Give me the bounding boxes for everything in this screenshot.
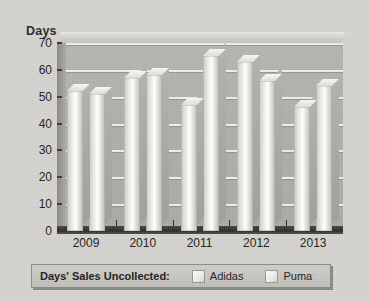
bar-adidas-2010: [124, 78, 140, 231]
y-tick-label-60: 60: [30, 63, 52, 77]
y-tick-mark-20: [57, 176, 62, 178]
legend-label-puma: Puma: [283, 270, 312, 282]
chart-figure: Days 010203040506070 2009201020112012201…: [0, 0, 370, 302]
y-tick-mark-50: [57, 96, 62, 98]
bar-front-face: [181, 105, 197, 231]
x-tick-label-2009: 2009: [73, 236, 100, 250]
x-tick-label-2011: 2011: [187, 236, 213, 250]
bar-front-face: [294, 107, 310, 231]
y-tick-label-0: 0: [30, 224, 52, 238]
bar-front-face: [259, 81, 275, 231]
x-tick-label-2013: 2013: [300, 236, 327, 250]
y-tick-label-70: 70: [30, 36, 52, 50]
y-tick-mark-40: [57, 123, 62, 125]
x-tick-label-2010: 2010: [129, 236, 156, 250]
bar-front-face: [146, 75, 162, 231]
y-tick-label-40: 40: [30, 117, 52, 131]
y-tick-mark-70: [57, 42, 62, 44]
legend-label-adidas: Adidas: [210, 270, 244, 282]
chart-legend: Days' Sales Uncollected: Adidas Puma: [31, 264, 331, 288]
bar-puma-2011: [203, 56, 219, 231]
bar-adidas-2011: [181, 105, 197, 231]
bar-adidas-2012: [237, 62, 253, 231]
x-tick-label-2012: 2012: [243, 236, 270, 250]
legend-entry-adidas: Adidas: [192, 270, 244, 283]
y-tick-mark-10: [57, 203, 62, 205]
y-tick-label-10: 10: [30, 197, 52, 211]
bar-front-face: [237, 62, 253, 231]
y-tick-mark-60: [57, 69, 62, 71]
bar-adidas-2009: [67, 91, 83, 231]
bar-side-face: [140, 65, 147, 224]
bar-front-face: [89, 94, 105, 231]
x-tick-mark-2011: [173, 220, 174, 226]
bar-puma-2013: [316, 86, 332, 231]
x-tick-mark-2010: [116, 220, 117, 226]
bar-front-face: [67, 91, 83, 231]
bar-side-face: [219, 43, 226, 224]
x-tick-mark-2013: [286, 220, 287, 226]
bar-front-face: [203, 56, 219, 231]
legend-swatch-adidas: [192, 270, 205, 283]
x-axis-tick-labels: 20092010201120122013: [57, 236, 343, 254]
x-tick-mark-2012: [229, 220, 230, 226]
legend-entry-puma: Puma: [265, 270, 312, 283]
bar-side-face: [83, 78, 90, 224]
y-tick-label-30: 30: [30, 143, 52, 157]
legend-title: Days' Sales Uncollected:: [40, 270, 170, 282]
bar-side-face: [105, 81, 112, 224]
bar-front-face: [124, 78, 140, 231]
y-tick-label-20: 20: [30, 170, 52, 184]
bar-puma-2009: [89, 94, 105, 231]
bar-series-container: [57, 43, 341, 231]
legend-swatch-puma: [265, 270, 278, 283]
plot-area: [57, 32, 341, 231]
bar-side-face: [275, 67, 282, 224]
bar-side-face: [162, 62, 169, 224]
bar-puma-2012: [259, 81, 275, 231]
y-axis-tick-labels: 010203040506070: [24, 32, 52, 231]
bar-side-face: [197, 91, 204, 224]
bar-side-face: [253, 49, 260, 224]
bar-side-face: [332, 73, 339, 224]
bar-adidas-2013: [294, 107, 310, 231]
y-tick-label-50: 50: [30, 90, 52, 104]
bar-puma-2010: [146, 75, 162, 231]
bar-side-face: [310, 94, 317, 224]
bar-front-face: [316, 86, 332, 231]
y-tick-mark-30: [57, 149, 62, 151]
